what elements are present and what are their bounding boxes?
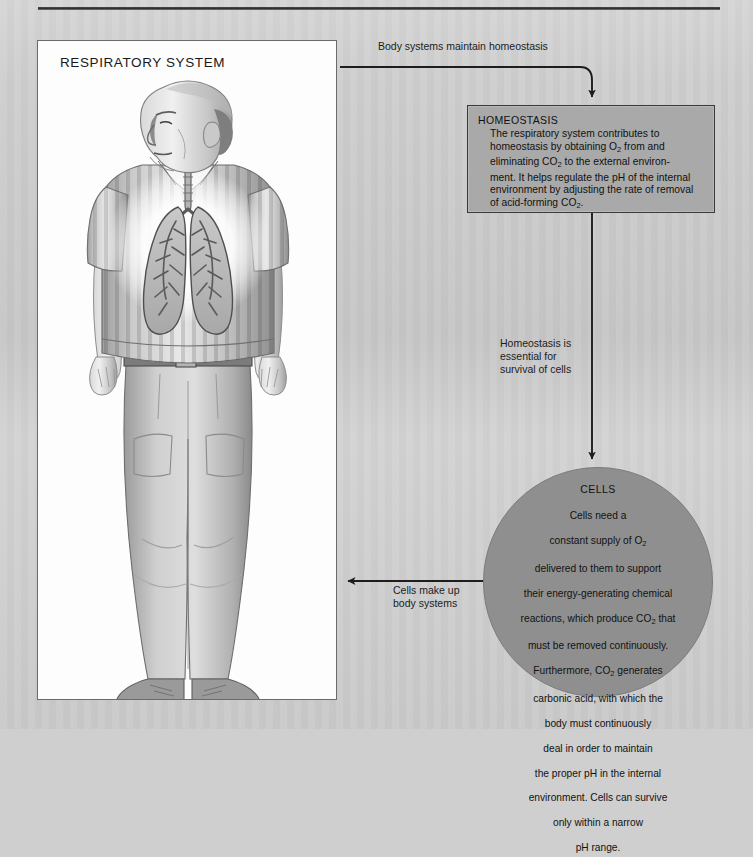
arrow-systems-to-homeostasis <box>340 67 592 97</box>
cells-line-11: the proper pH in the internal <box>488 768 708 780</box>
cells-line-13: only within a narrow <box>488 817 708 829</box>
label-cells-make-up-body-systems: Cells make up body systems <box>393 584 460 610</box>
label-homeostasis-essential: Homeostasis is essential for survival of… <box>500 337 571 376</box>
cells-line-10: deal in order to maintain <box>488 743 708 755</box>
cells-line-14: pH range. <box>488 842 708 854</box>
label-body-systems-maintain-homeostasis: Body systems maintain homeostasis <box>378 40 548 53</box>
cells-line-12: environment. Cells can survive <box>488 792 708 804</box>
